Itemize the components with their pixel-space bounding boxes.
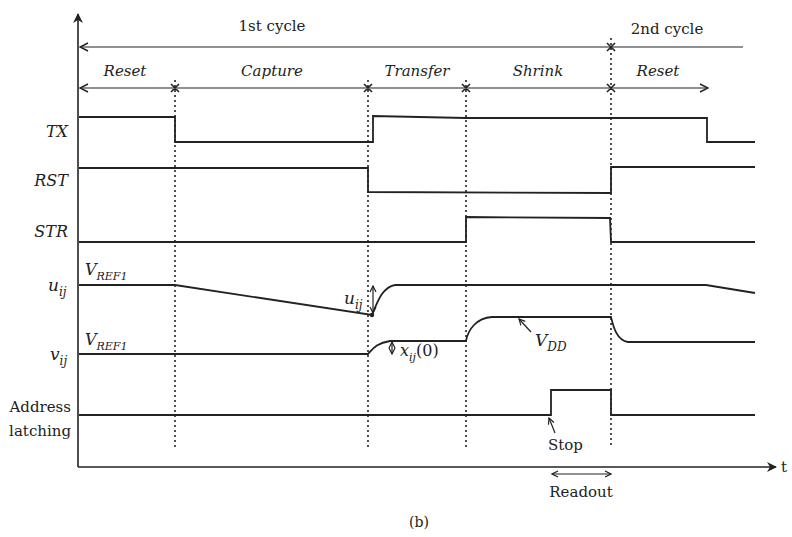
cycle-label-2nd: 2nd cycle — [631, 20, 704, 38]
waveform-u — [79, 285, 755, 315]
figure-caption: (b) — [409, 514, 429, 530]
vdd-label: VDD — [535, 330, 567, 354]
phase-boundaries — [175, 38, 611, 448]
x-initial-label: xij(0) — [400, 341, 439, 364]
vdd-pointer — [519, 319, 531, 332]
waveform-address — [79, 390, 755, 415]
signal-labels: TX RST STR uij vij VREF1 VREF1 Address l… — [9, 122, 128, 440]
waveforms — [79, 116, 755, 415]
signal-label-address: Address — [9, 398, 71, 416]
time-axis-label: t — [781, 458, 787, 476]
axes: t — [78, 14, 787, 476]
v-level-label: VREF1 — [85, 330, 128, 353]
u-level-label: VREF1 — [85, 260, 128, 283]
phase-label-capture: Capture — [241, 62, 303, 80]
signal-label-v: vij — [50, 344, 67, 368]
phase-label-transfer: Transfer — [384, 62, 450, 80]
signal-label-latching: latching — [9, 422, 71, 440]
annotations: uij xij(0) VDD Stop Readout — [344, 286, 613, 501]
u-delta-label: uij — [344, 288, 363, 312]
phase-row: Reset Capture Transfer Shrink Reset — [80, 62, 708, 92]
signal-label-str: STR — [34, 222, 68, 241]
signal-label-rst: RST — [33, 171, 69, 190]
waveform-rst — [79, 167, 755, 193]
timing-diagram: t 1st cycle 2nd cycle Reset Capture Tran… — [0, 0, 792, 537]
phase-label-reset: Reset — [103, 62, 148, 80]
stop-pointer — [549, 418, 555, 433]
u-delta-dot — [370, 313, 374, 317]
waveform-str — [79, 217, 755, 242]
readout-label: Readout — [549, 483, 612, 501]
signal-label-u: uij — [48, 275, 67, 299]
phase-label-reset-2: Reset — [636, 62, 681, 80]
cycle-label-1st: 1st cycle — [239, 17, 306, 35]
phase-label-shrink: Shrink — [513, 62, 564, 80]
waveform-tx — [79, 116, 755, 142]
stop-label: Stop — [548, 436, 583, 454]
signal-label-tx: TX — [46, 122, 69, 141]
cycle-row: 1st cycle 2nd cycle — [80, 17, 743, 51]
